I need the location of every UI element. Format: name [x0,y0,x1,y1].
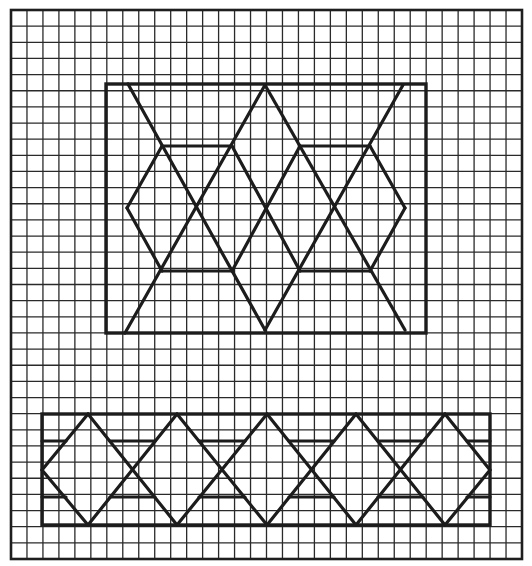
pattern-segment [127,208,162,271]
pattern-segment [125,85,265,333]
pattern-segment [370,208,405,271]
pattern-diagram [0,0,532,566]
graph-paper-grid [11,10,522,559]
